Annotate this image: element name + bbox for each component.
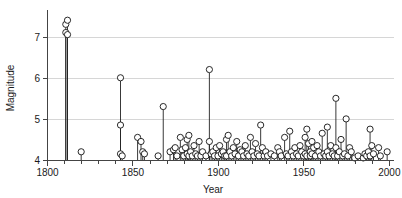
data-point-marker [177,134,183,140]
data-point-marker [319,130,325,136]
data-point-marker [186,132,192,138]
data-point-marker [287,128,293,134]
data-point-marker [206,66,212,72]
data-point-marker [302,134,308,140]
data-point-marker [217,143,223,149]
data-point-marker [247,134,253,140]
data-point-marker [117,122,123,128]
x-tick-label-2000: 2000 [378,167,401,178]
markers-layer [63,17,391,161]
data-point-marker [230,145,236,151]
data-point-marker [297,143,303,149]
data-point-marker [234,138,240,144]
data-point-marker [338,136,344,142]
x-tick-label-1850: 1850 [122,167,145,178]
data-point-marker [377,153,383,159]
y-tick-label-5: 5 [34,114,40,125]
data-point-marker [206,138,212,144]
data-point-marker [119,153,125,159]
x-tick-label-1900: 1900 [207,167,230,178]
data-point-marker [64,17,70,23]
data-point-marker [343,116,349,122]
data-point-marker [367,126,373,132]
data-point-marker [252,140,258,146]
data-point-marker [138,138,144,144]
data-point-marker [369,143,375,149]
data-point-marker [160,103,166,109]
data-point-marker [258,122,264,128]
data-point-marker [78,149,84,155]
data-point-marker [196,138,202,144]
data-point-marker [282,134,288,140]
data-point-marker [314,143,320,149]
y-tick-label-4: 4 [34,155,40,166]
magnitude-vs-year-chart: 456718001850190019502000 Year Magnitude [0,0,402,198]
x-axis-title: Year [203,184,224,195]
data-point-marker [370,151,376,157]
x-tick-label-1800: 1800 [36,167,59,178]
grid-lines [47,37,394,119]
x-tick-label-1950: 1950 [293,167,316,178]
data-point-marker [64,32,70,38]
data-point-marker [225,132,231,138]
data-point-marker [348,149,354,155]
data-point-marker [384,149,390,155]
data-point-marker [117,75,123,81]
y-tick-label-6: 6 [34,73,40,84]
y-tick-label-7: 7 [34,32,40,43]
data-point-marker [304,126,310,132]
data-point-marker [155,153,161,159]
data-point-marker [141,151,147,157]
data-point-marker [376,145,382,151]
data-point-marker [324,124,330,130]
data-point-marker [172,145,178,151]
data-point-marker [242,143,248,149]
chart-canvas: 456718001850190019502000 Year Magnitude [0,0,402,198]
data-point-marker [333,95,339,101]
y-axis-title: Magnitude [5,64,16,111]
data-point-marker [174,153,180,159]
